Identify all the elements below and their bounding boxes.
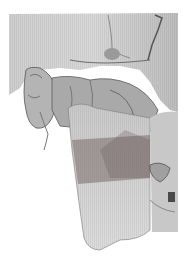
ct-rendering bbox=[0, 0, 190, 267]
dentition-right bbox=[150, 112, 178, 232]
